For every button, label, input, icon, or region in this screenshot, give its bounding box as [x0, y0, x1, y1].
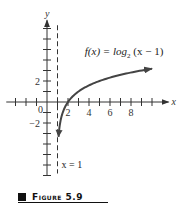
x-tick-label: 4 — [87, 107, 92, 118]
x-tick-label: 2 — [66, 107, 71, 118]
origin-label: 0 — [38, 104, 43, 115]
caption-square-icon — [18, 193, 26, 201]
y-tick-label: −2 — [29, 118, 40, 129]
x-tick-label: 8 — [129, 107, 134, 118]
y-tick-label: 2 — [35, 76, 40, 87]
curve-arrowhead-bottom — [56, 130, 63, 137]
function-label: f(x) = log2 (x − 1) — [85, 45, 164, 60]
figure-caption: Figure 5.9 — [18, 192, 83, 202]
x-axis-label: x — [171, 96, 177, 107]
function-curve — [59, 69, 152, 137]
caption-text: Figure 5.9 — [32, 192, 83, 202]
asymptote-label: x = 1 — [62, 159, 83, 170]
function-label-rhs: (x − 1) — [131, 45, 164, 58]
function-label-lhs: f(x) = log — [85, 45, 128, 58]
y-axis-label: y — [44, 8, 50, 19]
caption-divider — [18, 202, 108, 203]
axes — [6, 20, 168, 175]
chart-plot: 24682−2 x y 0 f(x) = log2 (x − 1) x = 1 — [0, 0, 183, 190]
x-tick-label: 6 — [108, 107, 113, 118]
